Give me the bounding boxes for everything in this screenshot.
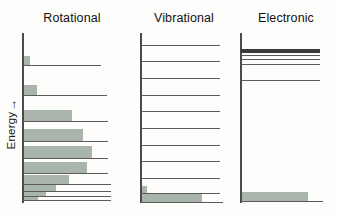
vibrational-energy-level-line — [141, 61, 220, 62]
energy-axis-arrow-icon: → — [6, 99, 18, 112]
panel-vibrational: Vibrational — [140, 0, 228, 217]
electronic-energy-level-line — [241, 59, 320, 60]
electronic-energy-level-line — [241, 80, 320, 81]
panel-rotational: Rotational — [22, 0, 122, 217]
electronic-energy-level-line — [241, 55, 320, 56]
electronic-energy-level-line — [241, 201, 323, 202]
vibrational-energy-level-line — [141, 78, 220, 79]
panel-electronic: Electronic — [240, 0, 332, 217]
rotational-energy-level-line — [23, 191, 111, 192]
panel-title-electronic: Electronic — [240, 11, 332, 25]
vibrational-occupancy-bar — [142, 193, 202, 202]
vibrational-energy-level-line — [141, 95, 220, 96]
plot-vibrational — [140, 33, 228, 203]
energy-axis-label-text: Energy — [5, 112, 17, 150]
rotational-occupancy-bar — [24, 56, 30, 65]
plot-electronic — [240, 33, 332, 203]
energy-axis-label: Energy→ — [5, 65, 21, 183]
electronic-energy-level-line — [241, 64, 320, 65]
panel-title-rotational: Rotational — [22, 11, 122, 25]
plot-rotational — [22, 33, 122, 203]
vibrational-occupancy-bar — [142, 186, 147, 193]
rotational-occupancy-bar — [24, 110, 72, 121]
rotational-energy-level-line — [23, 95, 107, 96]
energy-levels-figure: Energy→ Rotational Vibrational Electroni… — [0, 0, 337, 217]
rotational-occupancy-bar — [24, 129, 83, 141]
vibrational-energy-level-line — [141, 202, 223, 203]
rotational-energy-level-line — [23, 196, 111, 197]
electronic-energy-level-line — [241, 49, 320, 53]
vibrational-energy-level-line — [141, 178, 220, 179]
vibrational-energy-level-line — [141, 45, 220, 46]
rotational-energy-level-line — [23, 141, 108, 142]
rotational-energy-level-line — [23, 158, 108, 159]
rotational-energy-level-line — [23, 173, 108, 174]
vibrational-energy-level-line — [141, 145, 220, 146]
vibrational-energy-level-line — [141, 161, 220, 162]
vibrational-energy-level-line — [141, 128, 220, 129]
rotational-energy-level-line — [23, 121, 108, 122]
vibrational-energy-level-line — [141, 193, 220, 194]
rotational-energy-level-line — [23, 184, 111, 185]
panel-title-vibrational: Vibrational — [140, 11, 228, 25]
vibrational-energy-level-line — [141, 111, 220, 112]
rotational-occupancy-bar — [24, 85, 37, 95]
rotational-energy-level-line — [23, 65, 101, 66]
electronic-occupancy-bar — [242, 192, 308, 201]
rotational-occupancy-bar — [24, 162, 87, 173]
rotational-occupancy-bar — [24, 146, 92, 158]
rotational-energy-level-line — [23, 200, 111, 201]
rotational-occupancy-bar — [24, 175, 69, 184]
